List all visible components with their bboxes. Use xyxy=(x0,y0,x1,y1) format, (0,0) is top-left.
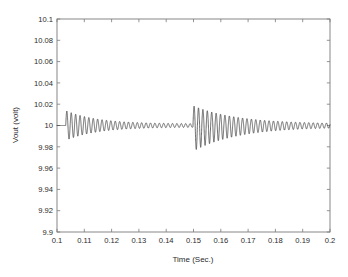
figure-canvas: 9.99.929.949.969.981010.0210.0410.0610.0… xyxy=(0,0,348,277)
x-tick-label: 0.15 xyxy=(186,236,201,245)
y-tick-label: 10.06 xyxy=(34,57,53,66)
x-tick-label: 0.14 xyxy=(159,236,174,245)
y-tick-label: 9.98 xyxy=(38,143,53,152)
x-tick-label: 0.16 xyxy=(213,236,228,245)
y-tick-label: 9.96 xyxy=(38,164,53,173)
y-axis-title: Vout (volt) xyxy=(11,107,20,143)
chart-plot: 9.99.929.949.969.981010.0210.0410.0610.0… xyxy=(0,0,348,277)
y-tick-label: 10 xyxy=(45,121,53,130)
x-tick-label: 0.11 xyxy=(77,236,91,245)
x-tick-label: 0.2 xyxy=(325,236,336,245)
x-tick-label: 0.13 xyxy=(132,236,147,245)
y-tick-label: 10.08 xyxy=(34,36,53,45)
plot-area-background xyxy=(57,19,330,232)
x-axis-title: Time (Sec.) xyxy=(172,255,213,264)
x-tick-label: 0.1 xyxy=(52,236,63,245)
x-tick-label: 0.12 xyxy=(104,236,119,245)
y-tick-label: 9.92 xyxy=(38,206,53,215)
y-tick-label: 10.02 xyxy=(34,100,53,109)
y-tick-label: 9.94 xyxy=(38,185,53,194)
x-tick-label: 0.18 xyxy=(268,236,283,245)
x-tick-label: 0.19 xyxy=(295,236,310,245)
x-tick-label: 0.17 xyxy=(241,236,256,245)
y-tick-label: 10.04 xyxy=(34,79,53,88)
y-tick-label: 10.1 xyxy=(38,15,53,24)
